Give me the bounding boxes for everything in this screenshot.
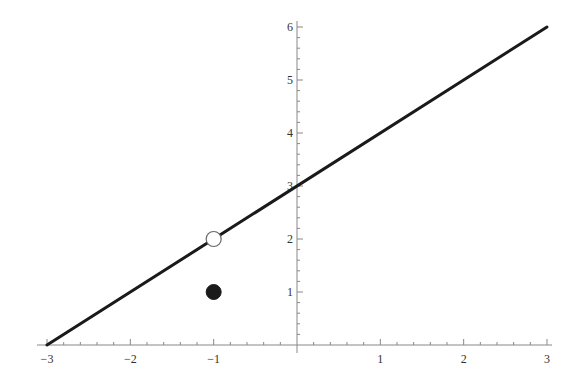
x-tick-label: 2 [461, 352, 467, 366]
y-tick-label: 1 [287, 285, 293, 299]
open-circle-point [206, 232, 221, 247]
y-tick-label: 5 [287, 73, 293, 87]
filled-circle-point [206, 285, 221, 300]
x-tick-label: 1 [377, 352, 383, 366]
y-tick-label: 2 [287, 232, 293, 246]
y-tick-label: 6 [287, 20, 293, 34]
x-tick-label: −3 [41, 352, 54, 366]
tick-labels: −3−2−1123123456 [41, 20, 550, 366]
y-tick-label: 4 [287, 126, 293, 140]
piecewise-function-plot: −3−2−1123123456 [0, 0, 588, 385]
x-tick-label: −2 [124, 352, 137, 366]
x-tick-label: −1 [207, 352, 220, 366]
x-tick-label: 3 [544, 352, 550, 366]
